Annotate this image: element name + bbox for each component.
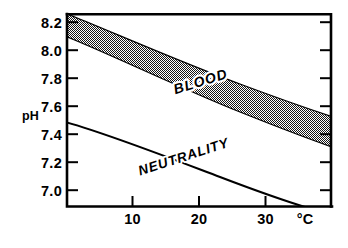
y-tick-label-7-4: 7.4 [41,127,62,143]
x-tick-label-30: 30 [257,211,274,227]
x-axis-unit-label: °C [297,211,314,227]
y-tick-label-8-0: 8.0 [41,43,62,59]
y-tick-label-7-2: 7.2 [41,155,62,171]
x-tick-label-20: 20 [191,211,208,227]
ph-temperature-chart: 8.2 8.0 7.8 7.6 7.4 7.2 7.0 10 20 30 °C … [0,0,348,248]
y-tick-label-7-8: 7.8 [41,71,62,87]
y-tick-label-7-0: 7.0 [41,183,62,199]
y-tick-label-7-6: 7.6 [41,99,62,115]
y-axis-label: pH [22,109,39,123]
y-tick-label-8-2: 8.2 [41,15,62,31]
figure-container: 8.2 8.0 7.8 7.6 7.4 7.2 7.0 10 20 30 °C … [0,0,348,248]
x-tick-label-10: 10 [124,211,141,227]
